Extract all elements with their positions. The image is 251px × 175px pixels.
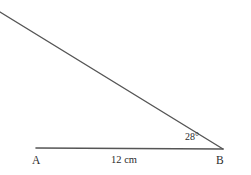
side-length-label-ab: 12 cm: [111, 155, 137, 166]
angle-measure-label-b: 28°: [185, 132, 199, 142]
vertex-label-a: A: [32, 155, 40, 167]
vertex-label-b: B: [216, 155, 224, 167]
geometry-figure-canvas: A B 12 cm 28°: [0, 0, 251, 175]
segment-ab-line: [36, 148, 223, 149]
ray-line-from-b: [0, 12, 223, 149]
geometry-line-layer: [0, 0, 251, 175]
